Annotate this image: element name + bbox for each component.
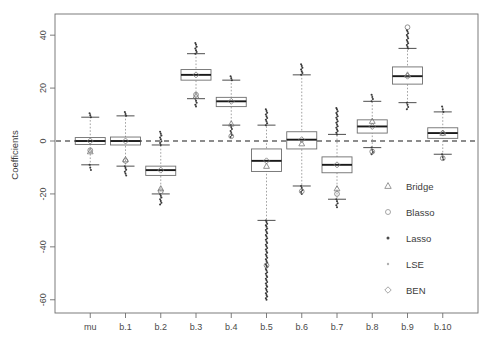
chart-figure: { "chart_data": { "type": "box", "title"… — [0, 0, 491, 341]
outlier-point — [160, 202, 162, 204]
outlier-point — [266, 223, 268, 225]
outlier-point — [266, 276, 268, 278]
outlier-point — [159, 131, 161, 133]
legend-label-blasso: Blasso — [406, 207, 435, 218]
x-tick-label-b.1: b.1 — [119, 322, 132, 332]
x-tick-label-b.5: b.5 — [260, 322, 273, 332]
outlier-point — [301, 67, 303, 69]
y-tick-label: 20 — [38, 83, 48, 93]
outlier-point — [266, 121, 268, 123]
legend-label-lasso: Lasso — [406, 233, 431, 244]
outlier-point — [266, 271, 268, 273]
outlier-point — [266, 242, 268, 244]
outlier-point — [301, 70, 303, 72]
outlier-point — [125, 167, 127, 169]
outlier-point — [300, 191, 302, 193]
outlier-point — [196, 102, 198, 104]
outlier-point — [371, 94, 373, 96]
outlier-point — [124, 111, 126, 113]
outlier-point — [89, 114, 91, 116]
outlier-point — [196, 51, 198, 53]
outlier-point — [159, 198, 161, 200]
outlier-point — [195, 44, 197, 46]
outlier-point — [194, 104, 196, 106]
legend-label-bridge: Bridge — [406, 181, 433, 192]
outlier-point — [231, 128, 233, 130]
filled-dot-icon — [387, 237, 390, 240]
outlier-point — [194, 42, 196, 44]
outlier-point — [407, 106, 409, 108]
outlier-point — [230, 130, 232, 132]
outlier-point — [159, 142, 161, 144]
outlier-point — [160, 133, 162, 135]
y-tick-label: 40 — [38, 30, 48, 40]
outlier-point — [265, 114, 267, 116]
y-tick-label: -60 — [38, 293, 48, 306]
outlier-point — [266, 112, 268, 114]
outlier-point — [194, 47, 196, 49]
outlier-point — [159, 136, 161, 138]
outlier-point — [125, 174, 127, 176]
boxplot-svg: 40200-20-40-60 mub.1b.2b.3b.4b.5b.6b.7b.… — [0, 0, 491, 341]
outlier-point — [266, 247, 268, 249]
outlier-point — [230, 77, 232, 79]
outlier-point — [337, 202, 339, 204]
x-tick-label-b.4: b.4 — [225, 322, 238, 332]
outlier-point — [301, 72, 303, 74]
x-tick-label-b.6: b.6 — [295, 322, 308, 332]
outlier-point — [266, 257, 268, 259]
outlier-point — [337, 120, 339, 122]
outlier-point — [441, 106, 443, 108]
outlier-point — [230, 75, 232, 77]
outlier-point — [195, 49, 197, 51]
y-tick-label: 0 — [38, 139, 48, 144]
outlier-point — [371, 96, 373, 98]
outlier-point — [336, 206, 338, 208]
legend-label-ben: BEN — [406, 285, 426, 296]
outlier-point — [195, 100, 197, 102]
outlier-point — [266, 227, 268, 229]
x-tick-label-b.2: b.2 — [154, 322, 167, 332]
outlier-point — [266, 299, 268, 301]
outlier-point — [406, 108, 408, 110]
legend-label-lse: LSE — [406, 259, 424, 270]
outlier-point — [125, 173, 127, 175]
outlier-point — [336, 200, 338, 202]
outlier-point — [195, 106, 197, 108]
outlier-point — [337, 125, 339, 127]
outlier-point — [372, 151, 374, 153]
outlier-point — [125, 113, 127, 115]
outlier-point — [266, 122, 268, 124]
y-tick-label: -40 — [38, 240, 48, 253]
outlier-point — [300, 69, 302, 71]
outlier-point — [407, 104, 409, 106]
outlier-point — [407, 32, 409, 34]
x-tick-label-b.3: b.3 — [190, 322, 203, 332]
x-tick-label-b.7: b.7 — [331, 322, 344, 332]
outlier-point — [230, 126, 232, 128]
outlier-point — [266, 237, 268, 239]
x-tick-label-b.10: b.10 — [434, 322, 452, 332]
outlier-point — [160, 138, 162, 140]
outlier-point — [89, 112, 91, 114]
outlier-point — [159, 204, 161, 206]
x-tick-label-b.9: b.9 — [401, 322, 414, 332]
outlier-point — [265, 119, 267, 121]
outlier-point — [337, 130, 339, 132]
outlier-point — [407, 37, 409, 39]
x-tick-label-b.8: b.8 — [366, 322, 379, 332]
outlier-point — [335, 204, 337, 206]
outlier-point — [442, 108, 444, 110]
outlier-point — [372, 98, 374, 100]
outlier-point — [266, 286, 268, 288]
outlier-point — [266, 232, 268, 234]
x-tick-label-mu: mu — [84, 322, 97, 332]
outlier-point — [196, 46, 198, 48]
outlier-point — [407, 42, 409, 44]
outlier-point — [300, 63, 302, 65]
outlier-point — [265, 108, 267, 110]
outlier-point — [160, 200, 162, 202]
y-tick-label: -20 — [38, 187, 48, 200]
outlier-point — [266, 252, 268, 254]
outlier-point — [266, 281, 268, 283]
